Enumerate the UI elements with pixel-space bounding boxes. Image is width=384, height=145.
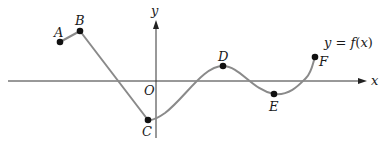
curve-label: y = f(x) <box>323 35 373 50</box>
label-e: E <box>268 99 279 114</box>
x-axis-label: x <box>371 73 379 88</box>
label-d: D <box>217 49 229 64</box>
curve-label-paren-close: ) <box>368 35 373 50</box>
y-axis-label: y <box>150 3 159 18</box>
label-f: F <box>318 54 329 69</box>
label-a: A <box>53 25 63 40</box>
point-c <box>145 117 152 124</box>
origin-label: O <box>144 83 155 98</box>
graph-svg: x y O A B C D E F y = f(x) <box>0 0 384 145</box>
curve-label-eq: = <box>331 35 350 50</box>
label-c: C <box>142 124 152 139</box>
label-b: B <box>74 13 85 28</box>
x-axis-arrow-icon <box>358 78 367 84</box>
function-graph-diagram: x y O A B C D E F y = f(x) <box>0 0 384 145</box>
point-e <box>271 91 278 98</box>
y-axis-arrow-icon <box>153 20 159 29</box>
point-f <box>312 54 319 61</box>
point-b <box>77 28 84 35</box>
